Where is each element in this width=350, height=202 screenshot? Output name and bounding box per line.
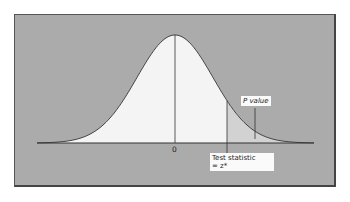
normal-curve-diagram	[0, 0, 350, 202]
p-value-text: P value	[243, 97, 269, 105]
p-value-label: P value	[241, 96, 271, 106]
test-statistic-line1: Test statistic	[212, 154, 272, 162]
curve-body-fill	[37, 35, 314, 143]
zero-tick-label: 0	[172, 145, 177, 154]
test-statistic-line2: = z*	[212, 162, 272, 170]
p-value-tail-fill	[227, 101, 314, 143]
test-statistic-label: Test statistic = z*	[210, 153, 274, 171]
